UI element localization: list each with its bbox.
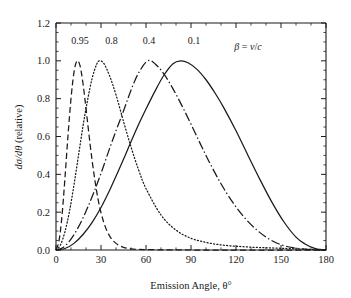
x-tick-label: 90 (186, 254, 197, 265)
series-label-0.95: 0.95 (71, 35, 89, 46)
x-tick-label: 60 (141, 254, 152, 265)
x-axis-title: Emission Angle, θ° (150, 280, 231, 291)
chart-canvas: 0306090120150180 0.00.20.40.60.81.01.2 0… (0, 0, 351, 298)
y-tick-label: 0.6 (37, 131, 50, 142)
x-tick-label: 30 (96, 254, 107, 265)
y-tick-label: 0.0 (37, 245, 50, 256)
legend-note-beta: β = v/c (233, 41, 262, 52)
series-label-0.8: 0.8 (105, 35, 118, 46)
y-tick-label: 1.0 (37, 55, 50, 66)
figure-container: 0306090120150180 0.00.20.40.60.81.01.2 0… (0, 0, 351, 298)
y-axis-title-group: dσ/dθ (relative) (13, 104, 25, 169)
y-tick-label: 0.2 (37, 207, 50, 218)
y-tick-label: 0.8 (37, 93, 50, 104)
x-tick-label: 120 (228, 254, 244, 265)
series-label-0.4: 0.4 (143, 35, 156, 46)
series-label-0.1: 0.1 (188, 35, 201, 46)
y-tick-label: 0.4 (37, 169, 51, 180)
x-tick-label: 0 (53, 254, 58, 265)
x-tick-label: 150 (273, 254, 289, 265)
y-tick-label: 1.2 (37, 18, 50, 29)
x-tick-label: 180 (318, 254, 334, 265)
y-axis-title: dσ/dθ (relative) (13, 104, 25, 169)
